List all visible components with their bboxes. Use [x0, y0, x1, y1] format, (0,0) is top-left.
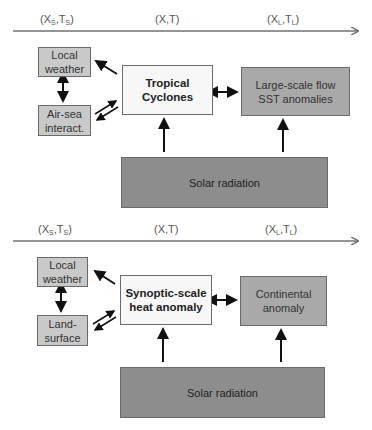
box-solar-radiation: Solar radiation	[121, 157, 328, 208]
arrow-to-airsea	[97, 107, 118, 120]
box-local-weather: Local weather	[37, 257, 88, 287]
axis-label-large-scale: (XL,TL)	[265, 223, 297, 236]
axis-label-mid-scale: (X,T)	[155, 13, 179, 25]
box-large-scale-flow: Large-scale flow SST anomalies	[241, 67, 350, 116]
arrow-to-landsurface	[95, 317, 116, 330]
box-local-weather: Local weather	[38, 47, 91, 77]
axis-label-large-scale: (XL,TL)	[267, 13, 299, 26]
axis-label-small-scale: (XS,TS)	[40, 13, 74, 26]
arrow-to-local-weather	[95, 271, 115, 284]
box-tropical-cyclones: Tropical Cyclones	[122, 65, 213, 115]
axis-label-mid-scale: (X,T)	[154, 223, 178, 235]
arrow-to-center	[93, 311, 114, 324]
box-land-surface: Land-surface	[37, 315, 88, 346]
axis-label-small-scale: (XS,TS)	[38, 223, 72, 236]
box-air-sea-interaction: Air-sea interact.	[38, 105, 91, 136]
arrow-to-local-weather	[96, 61, 117, 74]
box-synoptic-heat-anomaly: Synoptic-scale heat anomaly	[120, 275, 212, 325]
box-continental-anomaly: Continental anomaly	[240, 276, 327, 326]
arrow-to-center	[95, 101, 116, 114]
box-solar-radiation: Solar radiation	[120, 367, 325, 418]
